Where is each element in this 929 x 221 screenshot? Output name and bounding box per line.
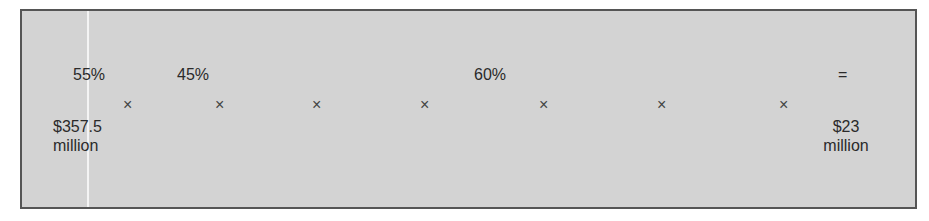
start-unit: million [53,136,102,155]
percent-60: 60% [474,65,506,84]
percent-55: 55% [73,65,105,84]
percent-45: 45% [177,65,209,84]
calculation-box: 55% 45% 60% = × × × × × × × $357.5 milli… [20,9,917,209]
multiply-icon: × [312,97,321,113]
start-amount: $357.5 [53,117,102,136]
multiply-icon: × [123,97,132,113]
start-value: $357.5 million [53,117,102,155]
multiply-icon: × [215,97,224,113]
end-amount: $23 [810,117,882,136]
multiply-icon: × [539,97,548,113]
multiply-icon: × [420,97,429,113]
equals-sign: = [838,65,847,84]
multiply-icon: × [657,97,666,113]
end-unit: million [810,136,882,155]
divider-line [87,11,89,207]
multiply-icon: × [779,97,788,113]
end-value: $23 million [810,117,882,155]
